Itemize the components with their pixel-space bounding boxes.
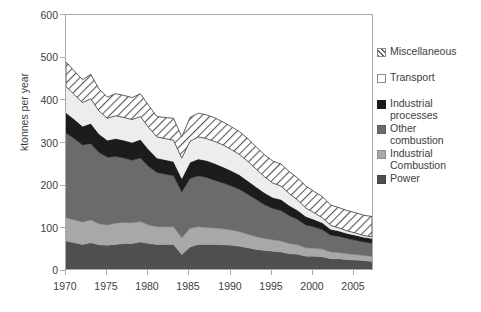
x-tick-mark-1980 [147, 270, 148, 275]
white-swatch-icon [377, 74, 386, 83]
y-tick-label-500: 500 [24, 52, 58, 63]
legend-label-line2: Combustion [390, 159, 446, 171]
x-tick-mark-1975 [106, 270, 107, 275]
x-tick-mark-1970 [65, 270, 66, 275]
y-tick-label-300: 300 [24, 138, 58, 149]
legend-label-transport: Transport [390, 72, 435, 84]
x-tick-mark-2000 [312, 270, 313, 275]
x-tick-label-1980: 1980 [125, 281, 169, 292]
y-tick-label-0: 0 [24, 265, 58, 276]
legend-item-other-combustion[interactable]: Othercombustion [377, 123, 481, 146]
light-grey-swatch-icon [377, 150, 386, 159]
chart-legend: Miscellaneous Transport Industrialproces… [377, 46, 481, 185]
x-tick-label-1985: 1985 [166, 281, 210, 292]
x-tick-label-2005: 2005 [331, 281, 375, 292]
y-tick-label-100: 100 [24, 223, 58, 234]
hatched-swatch-icon [377, 48, 386, 57]
legend-label-miscellaneous: Miscellaneous [390, 46, 457, 58]
legend-label-line2: processes [390, 109, 438, 121]
stacked-area-svg [66, 15, 372, 269]
legend-item-miscellaneous[interactable]: Miscellaneous [377, 46, 481, 58]
chart-container: ktonnes per year 600 500 400 300 200 100… [0, 0, 481, 312]
medium-dark-grey-swatch-icon [377, 175, 386, 184]
legend-label-other-combustion: Othercombustion [390, 123, 444, 146]
legend-item-power[interactable]: Power [377, 173, 481, 185]
x-tick-label-1970: 1970 [43, 281, 87, 292]
legend-label-power: Power [390, 173, 420, 185]
x-tick-label-2000: 2000 [290, 281, 334, 292]
plot-area [65, 14, 373, 270]
legend-label-line1: Industrial [390, 147, 433, 159]
legend-label-industrial-combustion: IndustrialCombustion [390, 148, 446, 171]
legend-label-line2: combustion [390, 134, 444, 146]
near-black-swatch-icon [377, 100, 386, 109]
legend-label-line1: Industrial [390, 97, 433, 109]
x-tick-label-1975: 1975 [84, 281, 128, 292]
x-tick-label-1995: 1995 [249, 281, 293, 292]
x-tick-label-1990: 1990 [208, 281, 252, 292]
y-tick-label-600: 600 [24, 10, 58, 21]
legend-item-transport[interactable]: Transport [377, 72, 481, 84]
y-tick-label-400: 400 [24, 95, 58, 106]
x-tick-mark-1995 [271, 270, 272, 275]
legend-item-industrial-processes[interactable]: Industrialprocesses [377, 98, 481, 121]
x-tick-mark-2005 [353, 270, 354, 275]
legend-label-line1: Other [390, 122, 416, 134]
x-tick-mark-1990 [230, 270, 231, 275]
y-tick-label-200: 200 [24, 180, 58, 191]
legend-label-industrial-processes: Industrialprocesses [390, 98, 438, 121]
x-tick-mark-1985 [188, 270, 189, 275]
dark-grey-swatch-icon [377, 125, 386, 134]
legend-item-industrial-combustion[interactable]: IndustrialCombustion [377, 148, 481, 171]
